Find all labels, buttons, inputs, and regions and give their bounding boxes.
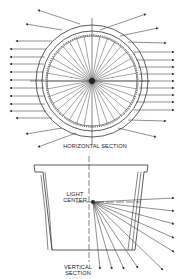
light-center-label-line2: CENTER [60, 197, 90, 203]
vertical-section-label-line2: SECTION [60, 270, 96, 276]
vertical-section-label: VERTICAL SECTION [60, 264, 96, 276]
horizontal-section-label: HORIZONTAL SECTION [50, 143, 140, 149]
light-center-label: LIGHT CENTER [60, 191, 90, 203]
vertical-section-figure [34, 156, 148, 262]
diagram-canvas [0, 0, 194, 279]
horizontal-section-figure [30, 18, 150, 144]
